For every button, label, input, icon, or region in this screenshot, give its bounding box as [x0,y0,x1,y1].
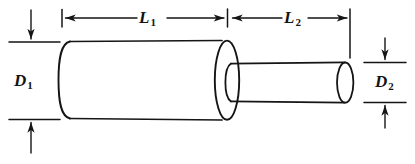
label-length-2: L2 [284,9,300,26]
label-diameter-2: D2 [375,73,393,90]
large-cylinder-body [59,41,240,121]
label-diameter-1-subscript: 1 [27,79,33,91]
label-length-2-symbol: L [284,8,294,27]
large-cylinder-top-edge [70,41,222,42]
engineering-diagram-figure: L1 L2 D1 D2 [0,0,415,164]
small-cylinder-body [225,62,353,102]
large-cylinder-right-ellipse [215,41,239,120]
large-cylinder-bottom-edge [70,119,222,121]
small-cylinder-left-arc [225,64,231,102]
label-length-1-symbol: L [139,8,149,27]
label-diameter-2-subscript: 2 [388,80,394,92]
large-cylinder-left-arc [59,42,71,119]
label-length-2-subscript: 2 [295,16,301,28]
small-cylinder-top-edge [231,62,345,63]
small-cylinder-bottom-edge [231,101,345,102]
label-length-1: L1 [139,9,155,26]
label-diameter-2-symbol: D [375,72,387,91]
stepped-shaft-drawing [0,0,415,164]
label-length-1-subscript: 1 [150,16,156,28]
label-diameter-1: D1 [14,72,32,89]
label-diameter-1-symbol: D [14,71,26,90]
small-cylinder-right-ellipse [337,63,353,103]
